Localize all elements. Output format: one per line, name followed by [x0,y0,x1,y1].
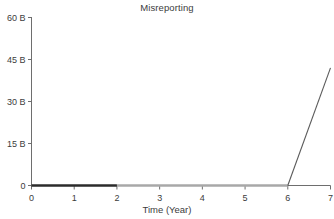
x-axis-tick-label: 0 [29,193,34,203]
y-axis-tick-label: 15 B [7,139,26,149]
data-series-misreporting [32,68,331,186]
rising-segment [288,68,331,186]
x-axis-title: Time (Year) [0,204,334,215]
x-axis-tick-label: 6 [285,193,290,203]
y-axis-tick-label: 0 [20,181,25,191]
y-axis-tick-label: 60 B [7,13,26,23]
y-axis-tick-label: 45 B [7,55,26,65]
y-axis-ticks [28,18,32,186]
plot-area [0,0,334,219]
y-axis-tick-label: 30 B [7,97,26,107]
x-axis-tick-label: 7 [328,193,333,203]
x-axis-tick-label: 4 [200,193,205,203]
x-axis-tick-label: 2 [114,193,119,203]
chart-container: Misreporting 015 B30 B45 B60 B 01234567 … [0,0,334,219]
x-axis-tick-label: 1 [72,193,77,203]
x-axis-tick-label: 5 [243,193,248,203]
x-axis-tick-label: 3 [157,193,162,203]
